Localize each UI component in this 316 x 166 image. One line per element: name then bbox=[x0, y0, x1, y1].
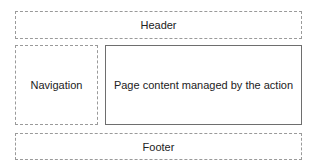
navigation-region: Navigation bbox=[15, 45, 98, 125]
page-content-region: Page content managed by the action bbox=[105, 45, 302, 125]
footer-region: Footer bbox=[15, 133, 302, 160]
page-content-label: Page content managed by the action bbox=[114, 79, 293, 91]
navigation-label: Navigation bbox=[31, 79, 83, 91]
header-label: Header bbox=[140, 19, 176, 31]
header-region: Header bbox=[15, 11, 302, 39]
footer-label: Footer bbox=[143, 141, 175, 153]
